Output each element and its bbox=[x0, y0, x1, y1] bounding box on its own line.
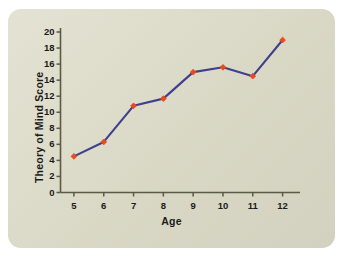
x-tick-label: 8 bbox=[152, 200, 174, 211]
x-tick-label: 5 bbox=[63, 200, 85, 211]
chart-figure: Theory of Mind Score Age 024681012141618… bbox=[0, 0, 343, 258]
y-tick-label: 20 bbox=[33, 26, 55, 37]
y-tick-label: 14 bbox=[33, 74, 55, 85]
x-tick-label: 7 bbox=[123, 200, 145, 211]
data-series bbox=[71, 37, 285, 159]
y-tick-label: 8 bbox=[33, 122, 55, 133]
y-tick-label: 0 bbox=[33, 187, 55, 198]
x-tick-label: 11 bbox=[242, 200, 264, 211]
y-tick-label: 2 bbox=[33, 170, 55, 181]
x-tick-label: 12 bbox=[272, 200, 294, 211]
x-axis-title: Age bbox=[0, 215, 343, 227]
y-tick-label: 16 bbox=[33, 58, 55, 69]
y-tick-label: 4 bbox=[33, 154, 55, 165]
y-tick-label: 18 bbox=[33, 42, 55, 53]
y-tick-label: 6 bbox=[33, 138, 55, 149]
y-tick-label: 12 bbox=[33, 90, 55, 101]
y-tick-label: 10 bbox=[33, 106, 55, 117]
x-tick-label: 10 bbox=[212, 200, 234, 211]
x-tick-label: 6 bbox=[93, 200, 115, 211]
x-tick-label: 9 bbox=[182, 200, 204, 211]
chart-axes bbox=[57, 28, 301, 197]
